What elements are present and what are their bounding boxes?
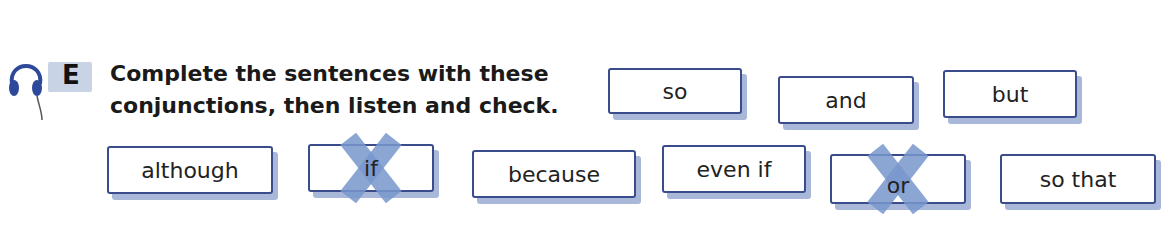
word-label: so — [663, 79, 688, 104]
word-or-crossed[interactable]: or — [830, 154, 966, 204]
word-so[interactable]: so — [608, 68, 742, 114]
word-label: if — [364, 156, 378, 181]
word-label: because — [508, 162, 600, 187]
word-if-crossed[interactable]: if — [308, 144, 434, 192]
instruction-line-1: Complete the sentences with these — [110, 58, 559, 90]
word-and[interactable]: and — [778, 76, 914, 124]
word-label: although — [141, 158, 238, 183]
word-because[interactable]: because — [472, 150, 636, 198]
word-but[interactable]: but — [943, 70, 1077, 118]
word-even-if[interactable]: even if — [662, 145, 806, 193]
exercise-label: E — [62, 60, 80, 90]
word-label: so that — [1040, 167, 1117, 192]
instruction: Complete the sentences with these conjun… — [110, 58, 559, 122]
word-so-that[interactable]: so that — [1000, 154, 1156, 204]
word-label: and — [825, 88, 866, 113]
word-label: but — [992, 82, 1029, 107]
headphones-icon[interactable] — [6, 54, 46, 120]
word-label: even if — [697, 157, 772, 182]
word-although[interactable]: although — [107, 146, 273, 194]
word-label: or — [887, 173, 910, 198]
instruction-line-2: conjunctions, then listen and check. — [110, 90, 559, 122]
